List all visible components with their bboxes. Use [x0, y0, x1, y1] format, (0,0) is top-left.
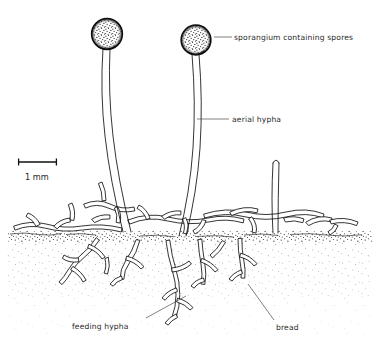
- aerial-hypha-stalk-left: [109, 48, 131, 232]
- bread-substrate: [0, 231, 378, 350]
- scale-bar: 1 mm: [18, 159, 57, 183]
- surface-hypha: [68, 203, 74, 220]
- aerial-hypha-stalk-short-tip: [273, 160, 279, 163]
- sporangia-group: [92, 19, 211, 55]
- surface-hypha: [249, 217, 257, 233]
- surface-hypha: [284, 217, 304, 223]
- surface-hypha: [98, 182, 106, 201]
- surface-hypha: [92, 215, 110, 223]
- aerial-hypha-stalk-short: [278, 163, 279, 233]
- diagram-canvas: 1 mm sporangium containing spores aerial…: [0, 0, 378, 350]
- sporangium-right: [181, 25, 211, 55]
- surface-hyphae-group: [14, 182, 358, 235]
- aerial-hypha-stalk-short: [272, 163, 273, 233]
- scale-bar-label: 1 mm: [25, 172, 49, 182]
- surface-hypha: [306, 217, 332, 226]
- label-bread: bread: [276, 323, 299, 332]
- sporangium-left: [92, 19, 123, 50]
- surface-hypha: [84, 201, 135, 212]
- bread-mould-diagram: 1 mm sporangium containing spores aerial…: [0, 0, 378, 350]
- substrate-surface-stipple: [8, 231, 372, 242]
- label-aerial-hypha: aerial hypha: [232, 115, 281, 124]
- label-sporangium: sporangium containing spores: [234, 33, 353, 42]
- label-feeding-hypha: feeding hypha: [72, 322, 129, 331]
- surface-hypha: [14, 222, 122, 232]
